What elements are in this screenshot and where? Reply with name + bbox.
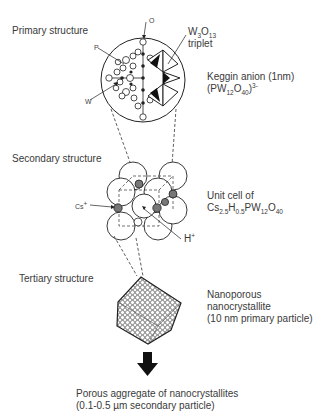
unit-cell-formula: Cs2.5H0.5PW12O40 [207, 202, 283, 214]
nanocrystallite-figure [117, 277, 181, 344]
nanocrystallite-line-2: nanocrystallite [207, 301, 271, 313]
secondary-structure-title: Secondary structure [12, 153, 102, 165]
keggin-anion-formula: (PW12O40)3- [207, 83, 258, 95]
triplet-label: triplet [188, 38, 212, 50]
keggin-anion-figure [90, 22, 186, 122]
unit-cell-figure [90, 162, 187, 240]
atom-label-w: W [85, 96, 92, 108]
cs-ion-label: Cs+ [75, 201, 87, 213]
unit-cell-label: Unit cell of [207, 190, 254, 202]
down-arrow-icon [137, 352, 158, 376]
keggin-anion-label: Keggin anion (1nm) [207, 71, 294, 83]
atom-label-o: O [149, 15, 154, 27]
nanocrystallite-line-1: Nanoporous [207, 289, 261, 301]
nanocrystallite-line-3: (10 nm primary particle) [207, 313, 313, 325]
aggregate-line-2: (0.1-0.5 µm secondary particle) [76, 400, 215, 412]
h-ion-label: H+ [184, 233, 195, 245]
triplet-formula: W3O13 [188, 26, 216, 38]
aggregate-line-1: Porous aggregate of nanocrystallites [76, 388, 238, 400]
atom-label-p: P [94, 42, 99, 54]
tertiary-structure-title: Tertiary structure [19, 273, 93, 285]
zoom-connector-lines-2 [114, 236, 143, 276]
primary-structure-title: Primary structure [12, 25, 88, 37]
